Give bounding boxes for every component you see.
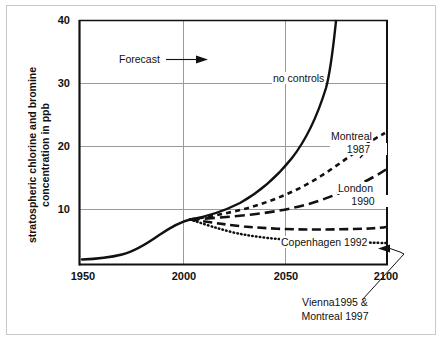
series-no-controls	[190, 21, 336, 220]
y-tick-label-10: 10	[44, 203, 70, 215]
y-tick-label-20: 20	[44, 140, 70, 152]
london-year-label: 1990	[337, 195, 389, 207]
chart-figure: stratospheric chlorine and bromine conce…	[0, 0, 442, 340]
series-historical	[82, 220, 190, 260]
forecast-arrow-icon	[166, 56, 208, 64]
chart-plot-svg	[0, 0, 442, 340]
no-controls-label: no controls	[272, 72, 325, 84]
x-tick-label-2100: 2100	[366, 270, 406, 282]
forecast-label: Forecast	[118, 53, 161, 65]
callout-line-2: Montreal 1997	[260, 310, 410, 323]
london-label: London	[337, 182, 374, 194]
callout-line-1: Vienna1995 &	[260, 296, 410, 309]
x-tick-label-2000: 2000	[164, 270, 204, 282]
montreal-year-label: 1987	[330, 143, 387, 155]
x-tick-label-1950: 1950	[63, 270, 103, 282]
copenhagen-label: Copenhagen 1992	[280, 236, 368, 248]
y-tick-label-30: 30	[44, 77, 70, 89]
x-tick-label-2050: 2050	[266, 270, 306, 282]
montreal-label: Montreal	[330, 130, 373, 142]
y-tick-label-40: 40	[44, 14, 70, 26]
